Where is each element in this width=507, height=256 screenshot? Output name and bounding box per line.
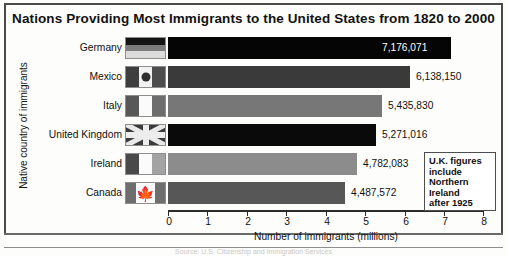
x-tick-label-8: 8	[481, 216, 487, 227]
bar-value-germany: 7,176,071	[382, 36, 427, 60]
x-tick-label-0: 0	[166, 216, 172, 227]
bar-value-ireland: 4,782,083	[363, 152, 408, 176]
category-label-ireland: Ireland	[91, 152, 122, 176]
germany-flag	[125, 37, 166, 59]
immigration-bar-chart-figure: Nations Providing Most Immigrants to the…	[0, 0, 507, 256]
bar-united-kingdom	[168, 124, 376, 146]
mexico-coat-of-arms-icon	[141, 73, 150, 82]
bar-value-italy: 5,435,830	[388, 94, 433, 118]
category-label-united-kingdom: United Kingdom	[49, 123, 122, 147]
category-label-canada: Canada	[86, 181, 122, 205]
x-tick-label-3: 3	[284, 216, 290, 227]
ireland-flag	[125, 153, 166, 175]
table-row: Germany 7,176,071	[0, 36, 507, 60]
x-tick-label-6: 6	[403, 216, 409, 227]
mexico-flag	[125, 66, 166, 88]
source-caption: Source: U.S. Citizenship and Immigration…	[0, 248, 507, 255]
x-axis-label: Number of immigrants (millions)	[168, 231, 484, 242]
table-row: United Kingdom 5,271,016	[0, 123, 507, 147]
bar-mexico	[168, 66, 410, 88]
bar-italy	[168, 95, 382, 117]
x-tick-label-5: 5	[363, 216, 369, 227]
bar-canada	[168, 182, 345, 204]
x-tick-label-4: 4	[324, 216, 330, 227]
plot-area: Germany 7,176,071 Mexico 6,138,150 Ital	[0, 0, 507, 256]
callout-line-5: after 1925	[429, 198, 495, 209]
bar-value-united-kingdom: 5,271,016	[382, 123, 427, 147]
callout-line-1: U.K. figures	[429, 156, 495, 167]
uk-footnote-box: U.K. figures include Northern Ireland af…	[424, 152, 496, 211]
x-tick-label-7: 7	[442, 216, 448, 227]
bar-value-mexico: 6,138,150	[416, 65, 461, 89]
italy-flag	[125, 95, 166, 117]
bar-ireland	[168, 153, 357, 175]
x-tick-label-2: 2	[245, 216, 251, 227]
table-row: Italy 5,435,830	[0, 94, 507, 118]
bar-value-canada: 4,487,572	[351, 181, 396, 205]
category-label-germany: Germany	[80, 36, 122, 60]
x-tick-label-1: 1	[205, 216, 211, 227]
table-row: Mexico 6,138,150	[0, 65, 507, 89]
united-kingdom-flag	[125, 124, 166, 146]
category-label-mexico: Mexico	[89, 65, 122, 89]
maple-leaf-icon: 🍁	[136, 186, 155, 201]
category-label-italy: Italy	[103, 94, 122, 118]
canada-flag: 🍁	[125, 182, 166, 204]
